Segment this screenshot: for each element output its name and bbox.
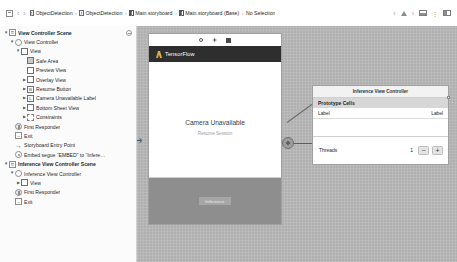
gear-icon[interactable] (126, 30, 132, 36)
outline-row-label: Constraints (36, 114, 62, 120)
outline-row[interactable]: →Exit (0, 131, 136, 140)
threads-decrement-button[interactable]: − (418, 146, 429, 155)
exit-icon: → (15, 132, 22, 139)
letter-icon: B (27, 86, 34, 93)
outline-row-label: Overlay View (36, 77, 66, 83)
outline-row[interactable]: ▼View Controller Scene (0, 28, 136, 37)
table-empty-area (313, 119, 448, 137)
prototype-cell-row[interactable]: Label Label (313, 108, 448, 119)
outline-row[interactable]: Preview View (0, 66, 136, 75)
bottom-panel-icon[interactable] (419, 10, 427, 17)
document-outline[interactable]: ▼View Controller Scene▼View Controller▼V… (0, 26, 137, 262)
threads-value: 1 (410, 147, 413, 153)
outline-row[interactable]: ▶BResume Button (0, 84, 136, 93)
scene-status-bar (149, 34, 281, 46)
breadcrumb-label: Main.storyboard (Base) (185, 10, 239, 16)
back-chevron-icon[interactable]: ‹ (17, 10, 19, 17)
nav-forward-chevron-icon[interactable]: › (412, 10, 414, 17)
outline-row[interactable]: ▶LCamera Unavailable Label (0, 94, 136, 103)
breadcrumb-separator: › (242, 10, 244, 16)
threads-stepper[interactable]: 1 − + (410, 146, 443, 155)
breadcrumb-separator: › (75, 10, 77, 16)
segue-line (294, 143, 312, 144)
outline-row-label: First Responder (24, 189, 60, 195)
resume-button[interactable]: Resume Session (149, 131, 281, 136)
embed-segue-icon[interactable] (282, 137, 294, 149)
breadcrumb-item-storyboard-base[interactable]: Main.storyboard (Base) (179, 10, 239, 16)
threads-label: Threads (319, 147, 337, 153)
outline-row[interactable]: ▶View (0, 178, 136, 187)
outline-row-label: Preview View (36, 67, 66, 73)
outline-row[interactable]: ▼View Controller (0, 37, 136, 46)
outline-row[interactable]: →Exit (0, 197, 136, 206)
prototype-cells-section-header: Prototype Cells (313, 98, 448, 108)
inference-scene-title: Inference View Controller (313, 86, 448, 98)
toolbar: ‹ › ObjectDetection › ObjectDetection › … (0, 0, 457, 26)
outline-row[interactable]: ▼View (0, 47, 136, 56)
outline-row[interactable]: ▼Inference View Controller Scene (0, 159, 136, 168)
outline-row[interactable]: ▼Inference View Controller (0, 169, 136, 178)
camera-unavailable-label: Camera Unavailable (149, 119, 281, 126)
outline-row-label: Camera Unavailable Label (36, 95, 96, 101)
resize-handle[interactable] (447, 96, 450, 99)
threads-increment-button[interactable]: + (432, 146, 443, 155)
breadcrumb-label: Main.storyboard (135, 10, 172, 16)
toolbar-left-group: ‹ › ObjectDetection › ObjectDetection › … (6, 10, 393, 17)
breadcrumb-item-folder[interactable]: ObjectDetection (79, 10, 122, 16)
bottom-sheet-view[interactable]: Inference (149, 177, 281, 224)
scene-icon (9, 161, 16, 168)
outline-row-label: Storyboard Entry Point (24, 142, 75, 148)
camera-unavailable-group: Camera Unavailable Resume Session (149, 119, 281, 136)
outline-row-label: View (30, 48, 41, 54)
storyboard-canvas[interactable]: ⟶ TensorFlow Camera Unavailable Resume S… (137, 26, 457, 262)
segue-icon (15, 151, 22, 158)
outline-row[interactable]: First Responder (0, 122, 136, 131)
square-icon (226, 38, 231, 43)
project-icon (30, 10, 35, 16)
right-panel-icon[interactable] (443, 10, 451, 17)
breadcrumb-item-storyboard[interactable]: Main.storyboard (129, 10, 172, 16)
outline-row-label: Inference View Controller Scene (18, 161, 96, 167)
storyboard-icon (179, 10, 184, 16)
inference-view-controller-scene[interactable]: Inference View Controller Prototype Cell… (313, 86, 448, 164)
storyboard-icon (129, 10, 134, 16)
outline-row-label: Exit (24, 133, 33, 139)
warning-triangle-icon[interactable] (401, 11, 407, 16)
outline-row-label: Embed segue “EMBED” to “Infere… (24, 152, 105, 158)
xcode-interface-builder-window: ‹ › ObjectDetection › ObjectDetection › … (0, 0, 457, 262)
outline-row[interactable]: ▶Overlay View (0, 75, 136, 84)
outline-row[interactable]: ▶Bottom Sheet View (0, 103, 136, 112)
view-icon (27, 67, 34, 74)
resp-icon (15, 123, 22, 130)
forward-chevron-icon[interactable]: › (23, 10, 25, 17)
entry-icon: → (15, 142, 22, 149)
letter-icon: L (27, 95, 34, 102)
tensorflow-logo-icon (156, 51, 162, 58)
view-controller-scene[interactable]: TensorFlow Camera Unavailable Resume Ses… (149, 34, 281, 224)
folder-icon (79, 10, 84, 16)
view-icon (27, 76, 34, 83)
breadcrumb-item-selection[interactable]: No Selection (246, 10, 275, 16)
outline-row[interactable]: →Storyboard Entry Point (0, 141, 136, 150)
outline-row-label: Inference View Controller (24, 171, 81, 177)
view-filled-icon (27, 57, 34, 64)
breadcrumb-item-project[interactable]: ObjectDetection (30, 10, 73, 16)
outline-row[interactable]: Safe Area (0, 56, 136, 65)
threads-row: Threads 1 − + (313, 137, 448, 163)
outline-row[interactable]: Embed segue “EMBED” to “Infere… (0, 150, 136, 159)
breadcrumb-separator: › (125, 10, 127, 16)
breadcrumb-label: ObjectDetection (85, 10, 122, 16)
breadcrumb: ObjectDetection › ObjectDetection › Main… (30, 10, 276, 16)
overflow-dots-icon[interactable]: ⋮ (432, 10, 438, 17)
nav-back-chevron-icon[interactable]: ‹ (393, 10, 395, 17)
sidebar-panel-icon[interactable] (6, 10, 13, 17)
outline-row-label: View (30, 180, 41, 186)
bottom-sheet-label: Inference (199, 197, 230, 204)
outline-row-label: First Responder (24, 124, 60, 130)
outline-row-label: Bottom Sheet View (36, 105, 79, 111)
outline-row[interactable]: ▶Constraints (0, 113, 136, 122)
outline-row[interactable]: First Responder (0, 188, 136, 197)
scene-icon (9, 29, 16, 36)
cell-right-label: Label (431, 111, 443, 116)
outline-row-label: View Controller Scene (18, 30, 72, 36)
